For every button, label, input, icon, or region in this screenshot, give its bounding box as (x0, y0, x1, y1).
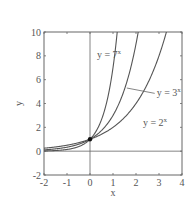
y-tick-label: 2 (36, 122, 41, 133)
exponential-functions-chart: -2-101234-20246810xyy = 7xy = 3xy = 2x (0, 0, 193, 204)
x-axis-label: x (111, 187, 116, 198)
x-tick-label: -1 (63, 177, 71, 188)
y-tick-label: 4 (36, 98, 41, 109)
intercept-point (88, 137, 92, 141)
y-tick-label: 10 (31, 27, 41, 38)
plot-area: -2-101234-20246810xyy = 7xy = 3xy = 2x (0, 0, 193, 204)
y-tick-label: -2 (33, 170, 41, 181)
x-tick-label: 2 (134, 177, 139, 188)
x-tick-label: 4 (180, 177, 185, 188)
x-tick-label: -2 (40, 177, 48, 188)
annotation-leader (127, 88, 155, 93)
annotation-label: y = 2x (143, 116, 168, 128)
annotation-label: y = 3x (157, 86, 182, 98)
y-tick-label: 0 (36, 146, 41, 157)
y-tick-label: 6 (36, 74, 41, 85)
x-tick-label: 3 (157, 177, 162, 188)
y-axis-label: y (13, 101, 24, 106)
annotation-label: y = 7x (97, 48, 122, 60)
y-tick-label: 8 (36, 50, 41, 61)
curve-base-3 (44, 8, 142, 149)
x-tick-label: 0 (88, 177, 93, 188)
